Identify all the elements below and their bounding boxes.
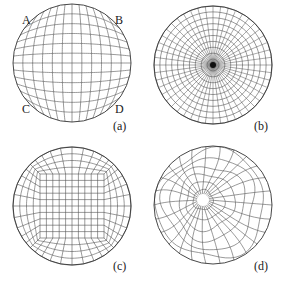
corner-label-d: D	[115, 103, 124, 115]
panel-d-unstructured-mesh	[154, 146, 272, 264]
caption-a: (a)	[113, 120, 126, 132]
caption-c: (c)	[113, 260, 126, 272]
mesh-diagram-canvas	[0, 0, 284, 283]
panel-c-o-grid-mesh	[13, 147, 131, 265]
caption-b: (b)	[254, 120, 268, 132]
corner-label-b: B	[115, 14, 123, 26]
corner-label-c: C	[22, 103, 30, 115]
panel-b-polar-mesh	[154, 6, 272, 124]
caption-d: (d)	[254, 260, 268, 272]
corner-label-a: A	[22, 14, 31, 26]
